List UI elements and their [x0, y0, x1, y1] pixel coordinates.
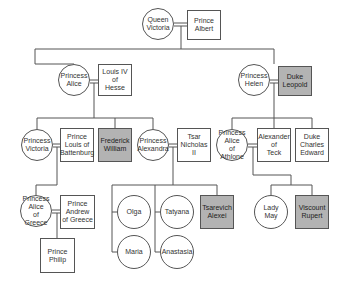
person-label: Maria: [125, 248, 143, 256]
person-label: Frederick William: [100, 137, 129, 153]
person-label: Alexander of Teck: [258, 133, 290, 157]
person-node-tatyana: Tatyana: [160, 195, 194, 229]
person-label: Lady May: [263, 204, 278, 220]
family-tree-diagram: Queen VictoriaPrince AlbertPrincess Alic…: [0, 0, 350, 287]
person-node-viscount-rupert: Viscount Rupert: [295, 195, 329, 229]
person-label: Olga: [127, 208, 142, 216]
person-node-anastasia: Anastasia: [160, 235, 194, 269]
person-label: Viscount Rupert: [299, 204, 326, 220]
person-node-duke-leopold: Duke Leopold: [278, 66, 312, 96]
person-node-princess-helen: Princess Helen: [238, 64, 270, 96]
person-label: Anastasia: [162, 248, 193, 256]
person-node-duke-charles-edward: Duke Charles Edward: [295, 128, 329, 162]
person-label: Prince Louis of Battenburg: [60, 133, 94, 157]
person-label: Princess Helen: [241, 72, 268, 88]
person-label: Tatyana: [165, 208, 190, 216]
person-node-tsarevich-alexei: Tsarevich Alexei: [200, 195, 234, 229]
person-label: Louis IV of Hesse: [102, 68, 127, 92]
person-node-lady-may: Lady May: [254, 195, 288, 229]
person-node-prince-philip: Prince Philip: [40, 238, 75, 273]
person-label: Prince Albert: [194, 17, 214, 33]
person-label: Tsarevich Alexei: [202, 204, 232, 220]
person-label: Princess Victoria: [24, 137, 51, 153]
person-node-maria: Maria: [117, 235, 151, 269]
person-label: Princess Alexandra: [137, 137, 169, 153]
person-node-princess-alexandra: Princess Alexandra: [137, 129, 169, 161]
person-label: Princess Alice: [61, 72, 88, 88]
person-node-queen-victoria: Queen Victoria: [142, 8, 174, 40]
person-node-princess-victoria: Princess Victoria: [21, 129, 53, 161]
person-label: Prince Philip: [48, 248, 68, 264]
person-node-prince-louis-of-battenburg: Prince Louis of Battenburg: [60, 128, 94, 162]
person-node-frederick-william: Frederick William: [98, 128, 132, 162]
person-node-tsar-nicholas-ii: Tsar Nicholas II: [177, 128, 211, 162]
person-label: Prince Andrew of Greece: [62, 200, 93, 224]
person-node-princess-alice-of-greece: Princess Alice of Greece: [20, 195, 52, 227]
person-node-princess-alice-of-athlone: Princess Alice of Athlone: [216, 129, 248, 161]
person-node-olga: Olga: [117, 195, 151, 229]
person-label: Queen Victoria: [146, 16, 169, 32]
person-node-princess-alice: Princess Alice: [58, 64, 90, 96]
person-label: Duke Charles Edward: [300, 133, 324, 157]
person-label: Princess Alice of Athlone: [218, 129, 246, 161]
person-node-alexander-of-teck: Alexander of Teck: [257, 128, 291, 162]
person-node-louis-iv-of-hesse: Louis IV of Hesse: [98, 64, 132, 96]
person-label: Tsar Nicholas II: [181, 133, 208, 157]
person-node-prince-albert: Prince Albert: [187, 10, 221, 40]
person-node-prince-andrew-of-greece: Prince Andrew of Greece: [60, 195, 95, 229]
person-label: Duke Leopold: [283, 73, 308, 89]
person-label: Princess Alice of Greece: [22, 195, 50, 227]
